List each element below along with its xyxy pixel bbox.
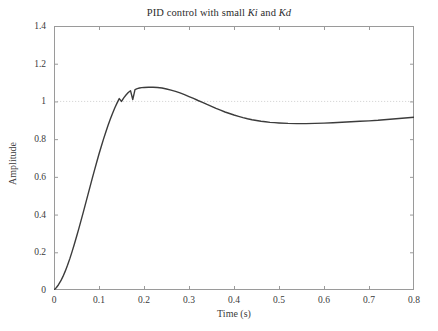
chart-title-mid: and [258, 7, 279, 18]
y-tick-label: 0.4 [0, 210, 46, 220]
chart-title-symbol-kd: Kd [279, 7, 291, 18]
plot-svg [54, 26, 414, 290]
y-tick-label: 1 [0, 96, 46, 106]
y-tick-label: 1.4 [0, 21, 46, 31]
x-tick-label: 0 [52, 295, 57, 305]
x-tick-label: 0.7 [363, 295, 375, 305]
x-tick-label: 0.1 [93, 295, 105, 305]
x-tick-label: 0.4 [228, 295, 240, 305]
y-tick-label: 1.2 [0, 59, 46, 69]
x-tick-label: 0.6 [318, 295, 330, 305]
chart-title: PID control with small Ki and Kd [0, 7, 438, 18]
x-tick-label: 0.5 [273, 295, 285, 305]
y-tick-label: 0 [0, 285, 46, 295]
y-tick-label: 0.2 [0, 247, 46, 257]
x-tick-label: 0.2 [138, 295, 150, 305]
plot-background [54, 26, 414, 290]
x-axis-title: Time (s) [54, 308, 414, 319]
plot-area [54, 26, 414, 290]
chart-title-symbol-ki: Ki [248, 7, 258, 18]
chart-title-lead: PID control with small [147, 7, 248, 18]
x-tick-label: 0.8 [408, 295, 420, 305]
figure-canvas: PID control with small Ki and Kd 00.20.4… [0, 0, 438, 331]
x-tick-label: 0.3 [183, 295, 195, 305]
y-axis-title: Amplitude [7, 119, 18, 209]
